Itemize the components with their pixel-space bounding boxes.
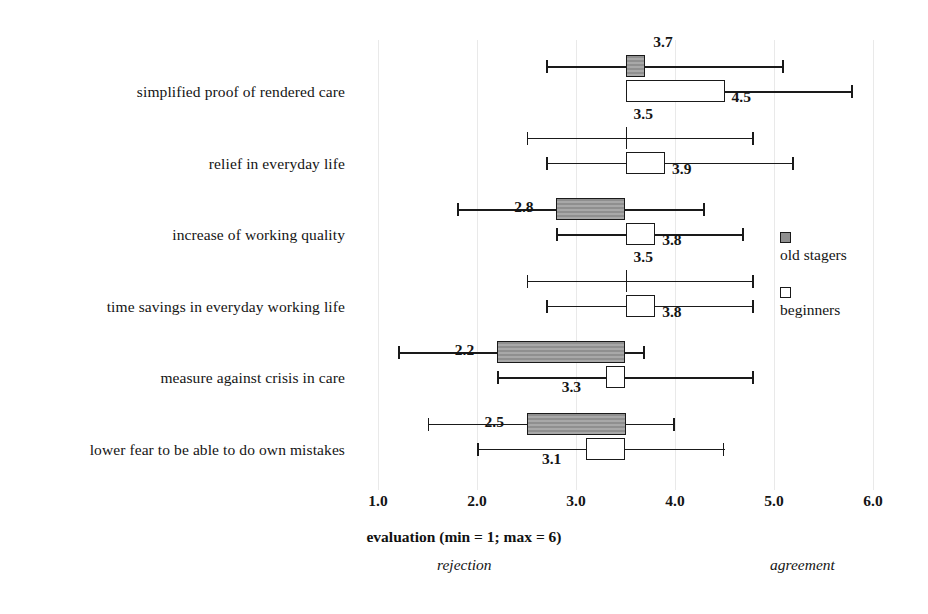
error-bar-cap-high xyxy=(752,275,754,288)
category-label: relief in everyday life xyxy=(10,155,345,173)
error-bar-cap-high xyxy=(782,60,784,73)
bar-beginners[interactable] xyxy=(626,295,656,317)
x-axis-title: evaluation (min = 1; max = 6) xyxy=(0,528,928,546)
error-bar-cap-low xyxy=(398,346,400,359)
value-label: 2.5 xyxy=(485,413,504,431)
pole-label-rejection: rejection xyxy=(437,556,492,574)
value-label: 2.8 xyxy=(514,198,533,216)
gridline-2.0 xyxy=(477,40,478,490)
value-label: 3.1 xyxy=(542,450,561,468)
x-tick-2.0: 2.0 xyxy=(447,492,507,510)
legend-label: beginners xyxy=(780,301,840,319)
error-bar-cap-low xyxy=(556,228,558,241)
error-bar-cap-high xyxy=(723,443,725,456)
category-label: lower fear to be able to do own mistakes xyxy=(10,441,345,459)
bar-old-stagers[interactable] xyxy=(556,198,625,220)
value-label: 3.8 xyxy=(662,303,681,321)
error-bar-line xyxy=(546,66,784,68)
value-label: 3.9 xyxy=(672,160,691,178)
error-bar-line xyxy=(546,163,794,165)
category-label: measure against crisis in care xyxy=(10,369,345,387)
error-bar-line xyxy=(527,138,755,140)
bar-beginners[interactable] xyxy=(626,152,666,174)
error-bar-cap-low xyxy=(546,157,548,170)
error-bar-cap-low xyxy=(497,371,499,384)
category-label: simplified proof of rendered care xyxy=(10,83,345,101)
legend-item-beginners[interactable]: beginners xyxy=(780,283,840,319)
bar-old-stagers[interactable] xyxy=(527,413,626,435)
error-bar-cap-high xyxy=(851,85,853,98)
x-tick-4.0: 4.0 xyxy=(645,492,705,510)
error-bar-cap-high xyxy=(752,371,754,384)
pole-label-agreement: agreement xyxy=(770,556,835,574)
category-label: time savings in everyday working life xyxy=(10,298,345,316)
error-bar-cap-high xyxy=(673,418,675,431)
gridline-1.0 xyxy=(378,40,379,490)
value-label: 3.5 xyxy=(634,248,653,266)
value-label: 3.5 xyxy=(634,105,653,123)
error-bar-cap-low xyxy=(477,443,479,456)
bar-old-stagers[interactable] xyxy=(626,127,627,149)
error-bar-cap-low xyxy=(527,275,529,288)
error-bar-cap-low xyxy=(457,203,459,216)
legend-item-old-stagers[interactable]: old stagers xyxy=(780,228,847,264)
value-label: 3.3 xyxy=(562,378,581,396)
plot-area: simplified proof of rendered care3.74.5r… xyxy=(0,0,928,614)
x-tick-6.0: 6.0 xyxy=(843,492,903,510)
gridline-5.0 xyxy=(774,40,775,490)
value-label: 3.7 xyxy=(653,33,672,51)
error-bar-cap-low xyxy=(527,132,529,145)
error-bar-cap-high xyxy=(752,132,754,145)
chart-root: simplified proof of rendered care3.74.5r… xyxy=(0,0,928,614)
bar-beginners[interactable] xyxy=(606,366,626,388)
legend-swatch-old-stagers xyxy=(780,232,791,243)
bar-old-stagers[interactable] xyxy=(497,341,626,363)
gridline-6.0 xyxy=(873,40,874,490)
error-bar-cap-high xyxy=(792,157,794,170)
value-label: 3.8 xyxy=(662,231,681,249)
error-bar-cap-high xyxy=(742,228,744,241)
x-tick-1.0: 1.0 xyxy=(348,492,408,510)
error-bar-cap-high xyxy=(703,203,705,216)
error-bar-cap-low xyxy=(546,300,548,313)
bar-old-stagers[interactable] xyxy=(626,55,646,77)
error-bar-cap-low xyxy=(428,418,430,431)
legend-swatch-beginners xyxy=(780,287,791,298)
x-tick-5.0: 5.0 xyxy=(744,492,804,510)
error-bar-line xyxy=(527,281,755,283)
bar-beginners[interactable] xyxy=(586,438,626,460)
category-label: increase of working quality xyxy=(10,226,345,244)
error-bar-cap-high xyxy=(752,300,754,313)
error-bar-line xyxy=(497,377,754,379)
x-tick-3.0: 3.0 xyxy=(546,492,606,510)
error-bar-cap-high xyxy=(643,346,645,359)
error-bar-cap-low xyxy=(546,60,548,73)
value-label: 2.2 xyxy=(455,341,474,359)
bar-old-stagers[interactable] xyxy=(626,270,627,292)
bar-beginners[interactable] xyxy=(626,80,725,102)
bar-beginners[interactable] xyxy=(626,223,656,245)
value-label: 4.5 xyxy=(732,88,751,106)
legend-label: old stagers xyxy=(780,246,847,264)
